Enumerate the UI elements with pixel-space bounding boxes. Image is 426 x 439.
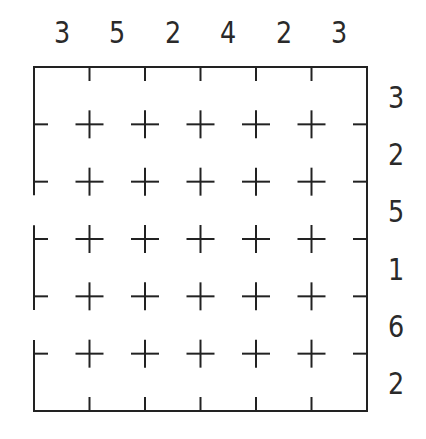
right-clue-1: 3 — [383, 83, 409, 113]
top-clue-5: 2 — [271, 18, 297, 48]
top-clue-6: 3 — [327, 18, 353, 48]
right-clue-3: 5 — [383, 197, 409, 227]
top-clue-2: 5 — [105, 18, 131, 48]
top-clue-1: 3 — [49, 18, 75, 48]
right-clue-4: 1 — [383, 255, 409, 285]
top-clue-4: 4 — [216, 18, 242, 48]
puzzle-grid — [0, 0, 426, 439]
right-clue-6: 2 — [383, 369, 409, 399]
top-clue-3: 2 — [160, 18, 186, 48]
right-clue-2: 2 — [383, 140, 409, 170]
grid-lines — [33, 67, 368, 411]
right-clue-5: 6 — [383, 312, 409, 342]
